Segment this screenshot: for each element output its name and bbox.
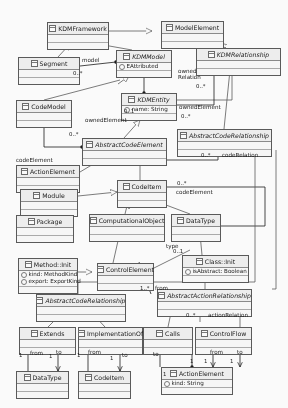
class-name: ActionElement xyxy=(30,168,75,176)
class-header-controlflow: ControlFlow xyxy=(196,328,251,340)
class-header-kdmrelationship: KDMRelationship xyxy=(197,49,280,61)
multiplicity-m-codeitem-elem: 0..* xyxy=(177,180,187,186)
class-operations-kdmentity xyxy=(122,114,176,120)
association-label-ownedelement-a: ownedElement xyxy=(85,117,127,124)
class-attributes-controlelement xyxy=(98,276,153,284)
class-name: DataType xyxy=(33,374,62,382)
class-box-kdmmodel[interactable]: KDMModelEAttributed xyxy=(116,50,172,78)
class-attributes-kdmrelationship xyxy=(197,61,280,69)
class-header-codeitem1: CodeItem xyxy=(118,181,166,193)
class-header-abstractcoderelationship2: AbstractCodeRelationship xyxy=(37,295,125,307)
association-label-ownedelement-b: ownedElement xyxy=(179,104,221,111)
class-stereotype-icon xyxy=(24,374,31,382)
class-attributes-methodinit: kind: MethodKindexport: ExportKind xyxy=(19,271,77,287)
multiplicity-m-cflow-1b: 1 xyxy=(230,358,233,364)
class-stereotype-icon xyxy=(86,141,93,149)
class-attributes-controlflow xyxy=(196,340,251,348)
class-attributes-classinit: isAbstract: Boolean xyxy=(183,268,248,276)
class-box-actionelement2[interactable]: ActionElementkind: String xyxy=(161,367,233,395)
association-label-model: model xyxy=(82,57,99,64)
class-attributes-codeitem2 xyxy=(79,384,130,392)
class-box-calls[interactable]: Calls xyxy=(143,327,193,355)
multiplicity-m-codemodel-elem: 0..* xyxy=(69,131,79,137)
class-stereotype-icon xyxy=(49,25,56,33)
class-header-classinit: Class::Init xyxy=(183,256,248,268)
class-box-extends[interactable]: Extends xyxy=(19,327,76,355)
class-box-abstractcoderelationship2[interactable]: AbstractCodeRelationship xyxy=(36,294,126,322)
class-name: Class::Init xyxy=(205,258,235,266)
class-stereotype-icon xyxy=(22,103,29,111)
class-operations-codemodel xyxy=(17,121,71,127)
class-header-implementationof: ImplementationOf xyxy=(79,328,142,340)
association-label-from-implof: from xyxy=(88,349,101,356)
class-operations-kdmmodel xyxy=(117,71,171,77)
multiplicity-m-type: 0..1 xyxy=(173,248,183,254)
class-header-controlelement: ControlElement xyxy=(98,264,153,276)
class-box-package[interactable]: Package xyxy=(16,215,74,243)
class-stereotype-icon xyxy=(97,266,104,274)
class-name: ControlFlow xyxy=(210,330,247,338)
class-operations-codeitem2 xyxy=(79,392,130,398)
class-name: AbstractCodeRelationship xyxy=(189,132,269,140)
class-operations-abstractcoderelationship2 xyxy=(37,315,125,321)
class-operations-calls xyxy=(144,348,192,354)
multiplicity-m-implof-1a: 1 xyxy=(77,352,80,358)
class-header-module: Module xyxy=(21,190,77,202)
class-name: AbstractCodeRelationship xyxy=(45,297,125,305)
class-operations-methodinit xyxy=(19,287,77,293)
class-box-module[interactable]: Module xyxy=(20,189,78,217)
association-label-to-cflow: to xyxy=(237,349,243,356)
class-stereotype-icon xyxy=(90,217,97,225)
class-attributes-codemodel xyxy=(17,113,71,121)
class-box-classinit[interactable]: Class::InitisAbstract: Boolean xyxy=(182,255,249,283)
class-operations-codeitem1 xyxy=(118,201,166,207)
class-name: ComputationalObject xyxy=(99,217,165,225)
class-attributes-kdmframework xyxy=(48,35,108,43)
class-name: ModelElement xyxy=(175,24,219,32)
class-stereotype-icon xyxy=(85,374,92,382)
class-stereotype-icon xyxy=(196,258,203,266)
class-box-kdmframework[interactable]: KDMFramework xyxy=(47,22,109,50)
class-header-abstractcoderelationship1: AbstractCodeRelationship xyxy=(178,130,271,142)
class-operations-datatype1 xyxy=(172,235,220,241)
association-label-actionrelation: actionRelation xyxy=(208,312,248,319)
class-box-kdmrelationship[interactable]: KDMRelationship xyxy=(196,48,281,76)
class-stereotype-icon xyxy=(21,168,28,176)
class-box-datatype1[interactable]: DataType xyxy=(171,214,221,242)
class-stereotype-icon xyxy=(123,53,130,61)
class-header-datatype1: DataType xyxy=(172,215,220,227)
class-operations-actionelement2 xyxy=(162,388,232,394)
attribute-label: kind: MethodKind xyxy=(29,271,78,278)
class-box-codemodel[interactable]: CodeModel xyxy=(16,100,72,128)
attribute-visibility-icon xyxy=(119,64,125,70)
class-box-datatype2[interactable]: DataType xyxy=(16,371,69,399)
class-box-methodinit[interactable]: Method::Initkind: MethodKindexport: Expo… xyxy=(18,258,78,294)
class-name: CodeItem xyxy=(94,374,124,382)
class-attributes-implementationof xyxy=(79,340,142,348)
attribute-label: isAbstract: Boolean xyxy=(193,268,247,275)
multiplicity-m-extends-1b: 1 xyxy=(49,353,52,359)
class-box-codeitem2[interactable]: CodeItem xyxy=(78,371,131,399)
association-label-codeelement-mid: codeElement xyxy=(176,189,213,196)
class-header-actionelement1: ActionElement xyxy=(17,166,79,178)
class-box-abstractcodeelement[interactable]: AbstractCodeElement xyxy=(82,138,167,166)
class-box-computationalobject[interactable]: ComputationalObject xyxy=(89,214,165,242)
class-name: KDMFramework xyxy=(58,25,106,33)
class-name: Method::Init xyxy=(34,261,71,269)
class-name: Package xyxy=(37,218,63,226)
association-label-to-extends: to xyxy=(56,349,62,356)
class-box-codeitem1[interactable]: CodeItem xyxy=(117,180,167,208)
class-box-segment[interactable]: Segment xyxy=(18,57,80,85)
class-header-abstractactionrelationship: AbstractActionRelationship xyxy=(158,290,251,302)
class-header-kdmentity: KDMEntity xyxy=(122,94,176,106)
class-box-controlflow[interactable]: ControlFlow xyxy=(195,327,252,355)
class-stereotype-icon xyxy=(123,183,130,191)
class-attributes-codeitem1 xyxy=(118,193,166,201)
class-name: ImplementationOf xyxy=(87,330,143,338)
association-label-coderelation: codeRelation xyxy=(222,152,258,159)
class-name: Segment xyxy=(40,60,68,68)
class-box-modelelement[interactable]: ModelElement xyxy=(161,21,224,49)
class-header-actionelement2: ActionElement xyxy=(162,368,232,380)
multiplicity-m-implof-1b: 1 xyxy=(110,355,113,361)
uml-class-diagram: KDMFrameworkModelElementSegmentKDMModelE… xyxy=(0,0,288,408)
